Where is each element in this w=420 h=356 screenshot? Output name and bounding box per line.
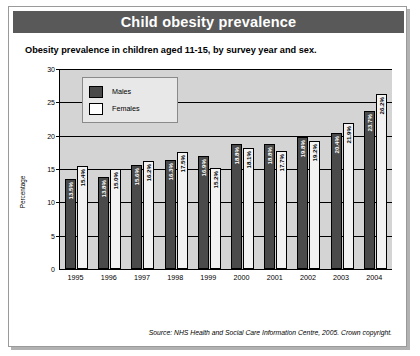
legend-swatch-females [89,103,103,115]
bar-males: 16.3% [165,160,176,269]
title-banner: Child obesity prevalence [13,11,404,33]
chart-card: Child obesity prevalence Obesity prevale… [8,6,407,347]
bar-males: 18.8% [264,144,275,269]
plot-area: 13.5%15.4%13.8%15.0%15.6%16.2%16.3%17.5%… [59,69,392,270]
x-axis-tick-label: 1995 [68,273,84,282]
y-axis-tick-labels: 051015202530 [35,69,55,269]
bar-group: 19.8%19.2% [297,69,320,269]
bar-group: 18.8%17.7% [264,69,287,269]
bar-females: 17.7% [276,151,287,269]
chart-subtitle: Obesity prevalence in children aged 11-1… [25,45,395,55]
bar-data-label: 20.4% [331,136,342,154]
x-axis-tick-label: 2002 [300,273,316,282]
bar-females: 17.5% [177,152,188,269]
x-axis-tick-label: 1996 [101,273,117,282]
x-axis-tick-label: 1997 [134,273,150,282]
bar-data-label: 18.8% [264,147,275,165]
bar-data-label: 26.2% [376,97,387,115]
bar-data-label: 19.8% [297,140,308,158]
bar-data-label: 18.8% [231,147,242,165]
x-axis-tick-label: 1998 [167,273,183,282]
bar-data-label: 21.9% [343,126,354,144]
y-axis-title: Percentage [19,147,26,237]
bar-males: 16.9% [198,156,209,269]
y-axis-tick-label: 20 [35,132,55,139]
bar-males: 23.7% [364,111,375,269]
legend-label-males: Males [112,87,131,96]
y-axis-tick-label: 5 [35,232,55,239]
x-axis-tick-label: 1999 [200,273,216,282]
bar-data-label: 16.2% [143,164,154,182]
bar-data-label: 17.7% [276,154,287,172]
bar-females: 19.2% [309,141,320,269]
bar-data-label: 18.1% [243,151,254,169]
bar-group: 20.4%21.9% [331,69,354,269]
bar-data-label: 15.4% [77,169,88,187]
bar-data-label: 16.3% [165,163,176,181]
bar-males: 20.4% [331,133,342,269]
y-axis-tick-label: 30 [35,66,55,73]
bar-data-label: 13.5% [65,182,76,200]
x-axis-tick-label: 2004 [366,273,382,282]
bar-females: 15.2% [210,168,221,269]
y-axis-tick-label: 10 [35,199,55,206]
screenshot-root: Child obesity prevalence Obesity prevale… [0,0,420,356]
legend-item-females: Females [89,100,171,117]
y-axis-tick-label: 15 [35,166,55,173]
x-axis-tick-label: 2000 [234,273,250,282]
page-title: Child obesity prevalence [121,14,297,30]
bar-males: 19.8% [297,137,308,269]
bar-data-label: 15.2% [210,171,221,189]
legend-item-males: Males [89,83,171,100]
bar-males: 18.8% [231,144,242,269]
x-axis-tick-label: 2003 [333,273,349,282]
legend-swatch-males [89,86,103,98]
chart-container: Percentage 051015202530 13.5%15.4%13.8%1… [25,69,395,314]
y-axis-tick-label: 25 [35,99,55,106]
bar-data-label: 15.6% [131,168,142,186]
bar-group: 18.8%18.1% [231,69,254,269]
bar-data-label: 15.0% [110,172,121,190]
chart-legend: Males Females [82,77,178,123]
bar-data-label: 16.9% [198,159,209,177]
bar-group: 16.9%15.2% [198,69,221,269]
x-axis-tick-label: 2001 [267,273,283,282]
bar-males: 13.8% [98,177,109,269]
bar-group: 23.7%26.2% [364,69,387,269]
bar-data-label: 13.8% [98,180,109,198]
bar-females: 18.1% [243,148,254,269]
bar-females: 16.2% [143,161,154,269]
bar-males: 15.6% [131,165,142,269]
bar-data-label: 17.5% [177,155,188,173]
bar-females: 15.4% [77,166,88,269]
bar-females: 26.2% [376,94,387,269]
bar-data-label: 23.7% [364,114,375,132]
y-axis-tick-label: 0 [35,266,55,273]
legend-label-females: Females [112,104,140,113]
x-axis-tick-labels: 1995199619971998199920002001200220032004 [59,273,391,282]
bar-females: 21.9% [343,123,354,269]
bar-data-label: 19.2% [309,144,320,162]
bar-males: 13.5% [65,179,76,269]
bar-females: 15.0% [110,169,121,269]
source-note: Source: NHS Health and Social Care Infor… [149,329,392,336]
